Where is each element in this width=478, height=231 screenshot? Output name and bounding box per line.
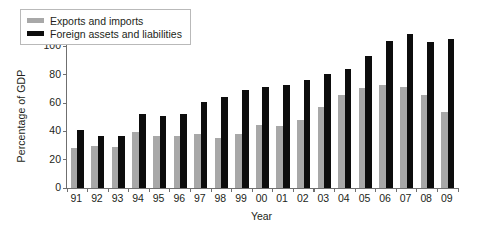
bar-foreign-assets-and-liabilities [324, 74, 331, 188]
y-tick-label: 40 [49, 124, 61, 136]
bar-chart: Percentage of GDP 020406080100120 919293… [0, 0, 478, 231]
bar-group [293, 18, 314, 188]
bar-foreign-assets-and-liabilities [98, 136, 105, 188]
bar-foreign-assets-and-liabilities [386, 41, 393, 188]
x-tick-label: 03 [313, 192, 334, 206]
bar-foreign-assets-and-liabilities [160, 116, 167, 188]
bar-foreign-assets-and-liabilities [365, 56, 372, 188]
bar-foreign-assets-and-liabilities [180, 114, 187, 188]
y-tick-label: 80 [49, 68, 61, 80]
bar-group [190, 18, 211, 188]
bar-group [396, 18, 417, 188]
bar-foreign-assets-and-liabilities [407, 34, 414, 188]
x-tick-label: 94 [128, 192, 149, 206]
bar-group [232, 18, 253, 188]
y-tick-label: 0 [55, 181, 61, 193]
bar-foreign-assets-and-liabilities [283, 85, 290, 188]
x-tick-mark [458, 188, 459, 192]
legend-item: Foreign assets and liabilities [27, 27, 182, 40]
bar-foreign-assets-and-liabilities [262, 87, 269, 188]
bar-foreign-assets-and-liabilities [139, 114, 146, 188]
x-tick-label: 95 [148, 192, 169, 206]
x-axis-tick-labels: 91929394959697989900010203040506070809 [66, 192, 457, 206]
bar-group [314, 18, 335, 188]
legend-swatch [27, 18, 44, 23]
bar-group [437, 18, 458, 188]
x-tick-label: 07 [395, 192, 416, 206]
x-tick-label: 92 [87, 192, 108, 206]
bar-group [417, 18, 438, 188]
chart-legend: Exports and importsForeign assets and li… [20, 9, 191, 45]
x-tick-label: 05 [354, 192, 375, 206]
bar-foreign-assets-and-liabilities [345, 69, 352, 188]
x-tick-label: 08 [416, 192, 437, 206]
x-tick-label: 09 [436, 192, 457, 206]
legend-label: Foreign assets and liabilities [50, 28, 182, 40]
x-tick-label: 96 [169, 192, 190, 206]
x-tick-label: 06 [375, 192, 396, 206]
legend-swatch [27, 31, 44, 36]
bar-foreign-assets-and-liabilities [118, 136, 125, 188]
x-tick-label: 02 [292, 192, 313, 206]
bar-foreign-assets-and-liabilities [242, 90, 249, 188]
x-axis-title: Year [66, 210, 457, 222]
bar-foreign-assets-and-liabilities [304, 80, 311, 188]
bar-group [355, 18, 376, 188]
x-tick-label: 93 [107, 192, 128, 206]
x-tick-label: 04 [334, 192, 355, 206]
bar-group [376, 18, 397, 188]
x-tick-label: 00 [251, 192, 272, 206]
bar-foreign-assets-and-liabilities [427, 42, 434, 188]
bar-foreign-assets-and-liabilities [221, 97, 228, 188]
bar-foreign-assets-and-liabilities [448, 39, 455, 188]
bar-foreign-assets-and-liabilities [201, 102, 208, 188]
y-axis-title: Percentage of GDP [15, 31, 27, 201]
y-tick-label: 60 [49, 96, 61, 108]
x-tick-label: 98 [210, 192, 231, 206]
x-tick-label: 97 [189, 192, 210, 206]
bar-group [211, 18, 232, 188]
x-tick-label: 01 [272, 192, 293, 206]
legend-item: Exports and imports [27, 14, 182, 27]
bar-group [335, 18, 356, 188]
bar-group [252, 18, 273, 188]
x-tick-label: 99 [231, 192, 252, 206]
x-tick-label: 91 [66, 192, 87, 206]
bar-group [273, 18, 294, 188]
legend-label: Exports and imports [50, 15, 143, 27]
bar-foreign-assets-and-liabilities [77, 130, 84, 188]
y-tick-label: 20 [49, 153, 61, 165]
